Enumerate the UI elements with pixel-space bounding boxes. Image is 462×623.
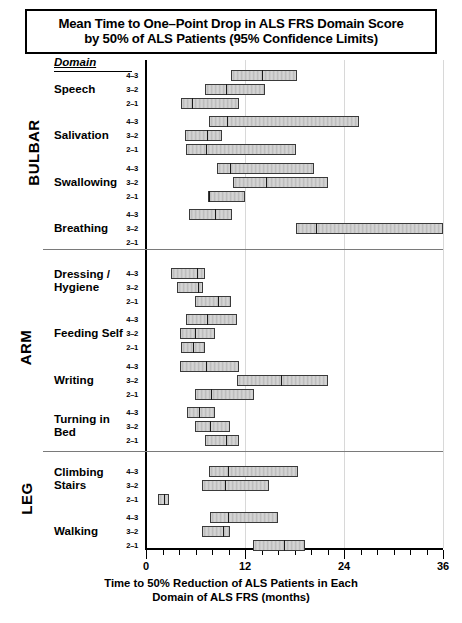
tick-2 [163,550,164,555]
transition-label-6-2: 2–1 [116,390,138,399]
mean-marker [215,209,216,220]
mean-marker [192,98,193,109]
transition-label-6-0: 4–3 [116,362,138,371]
ci-bar [181,342,206,353]
ci-bar [189,209,232,220]
transition-label-0-0: 4–3 [116,71,138,80]
mean-marker [262,70,263,81]
tick-22 [328,550,329,555]
mean-marker [225,480,226,491]
ci-bar [205,435,239,446]
x-axis-caption: Time to 50% Reduction of ALS Patients in… [0,577,462,604]
transition-label-9-2: 2–1 [116,541,138,550]
tick-30 [394,550,395,555]
transition-label-8-2: 2–1 [116,495,138,504]
transition-label-4-1: 3–2 [116,283,138,292]
mean-marker [227,116,228,127]
transition-label-2-0: 4–3 [116,164,138,173]
transition-label-7-0: 4–3 [116,408,138,417]
tick-28 [377,550,378,555]
transition-label-3-1: 3–2 [116,224,138,233]
group-label-arm: ARM [0,339,52,356]
chart-title: Mean Time to One–Point Drop in ALS FRS D… [25,9,437,54]
mean-marker [284,540,285,551]
ci-bar [209,116,359,127]
mean-marker [211,389,212,400]
ci-bar [158,494,170,505]
ci-bar [237,375,328,386]
mean-marker [223,526,224,537]
mean-marker [281,375,282,386]
tick-36 [443,550,444,559]
transition-label-5-0: 4–3 [116,315,138,324]
ci-bar [186,144,297,155]
tick-32 [410,550,411,555]
ci-bar [202,526,230,537]
mean-marker [199,407,200,418]
transition-label-2-1: 3–2 [116,178,138,187]
ci-bar [185,130,222,141]
group-label-text: LEG [18,482,35,514]
transition-label-3-2: 2–1 [116,238,138,247]
transition-label-0-1: 3–2 [116,85,138,94]
mean-marker [193,342,194,353]
transition-label-2-2: 2–1 [116,192,138,201]
tick-4 [179,550,180,555]
mean-marker [226,435,227,446]
transition-label-3-0: 4–3 [116,210,138,219]
ci-bar [217,163,314,174]
ci-bar [233,177,329,188]
title-line-2: by 50% of ALS Patients (95% Confidence L… [84,32,378,47]
x-caption-line-2: Domain of ALS FRS (months) [0,591,462,605]
mean-marker [230,163,231,174]
mean-marker [210,421,211,432]
transition-label-5-2: 2–1 [116,343,138,352]
ci-bar [296,223,443,234]
als-frs-domain-chart: Mean Time to One–Point Drop in ALS FRS D… [0,0,462,623]
transition-label-1-1: 3–2 [116,131,138,140]
transition-label-7-2: 2–1 [116,436,138,445]
mean-marker [164,494,165,505]
tick-label-24: 24 [338,560,350,572]
mean-marker [266,177,267,188]
group-label-text: BULBAR [25,119,42,185]
ci-bar [180,361,239,372]
group-label-bulbar: BULBAR [0,144,52,161]
ci-bar [210,512,278,523]
mean-marker [207,130,208,141]
transition-label-6-1: 3–2 [116,376,138,385]
mean-marker [206,361,207,372]
transition-label-9-1: 3–2 [116,527,138,536]
transition-label-1-0: 4–3 [116,117,138,126]
x-caption-line-1: Time to 50% Reduction of ALS Patients in… [0,577,462,591]
domain-column-header: Domain [54,56,96,68]
section-divider-1 [43,249,443,250]
group-label-text: ARM [17,330,34,366]
transition-label-8-0: 4–3 [116,467,138,476]
mean-marker [198,282,199,293]
ci-bar [180,328,215,339]
tick-label-36: 36 [437,560,449,572]
tick-10 [229,550,230,555]
transition-label-8-1: 3–2 [116,481,138,490]
transition-label-1-2: 2–1 [116,145,138,154]
tick-label-12: 12 [239,560,251,572]
ci-bar [202,480,269,491]
tick-6 [196,550,197,555]
mean-marker [209,191,210,202]
mean-marker [197,268,198,279]
section-divider-2 [43,451,443,452]
gridline-36 [443,60,444,548]
mean-marker [207,314,208,325]
group-label-leg: LEG [0,490,52,507]
ci-bar [195,389,254,400]
ci-bar [186,314,237,325]
title-line-1: Mean Time to One–Point Drop in ALS FRS D… [58,17,403,32]
ci-bar [231,70,297,81]
ci-bar [208,191,245,202]
tick-26 [361,550,362,555]
mean-marker [316,223,317,234]
mean-marker [218,296,219,307]
ci-bar [195,421,230,432]
tick-34 [427,550,428,555]
